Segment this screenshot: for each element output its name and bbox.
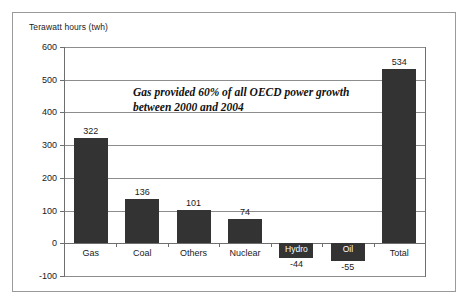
x-axis-category-label-oil: Oil: [343, 244, 353, 254]
bar-total[interactable]: [382, 69, 416, 244]
y-axis-tick: [60, 276, 65, 277]
chart-annotation-line-2: between 2000 and 2004: [133, 100, 383, 115]
y-axis-tick-label: 500: [42, 75, 57, 85]
x-axis-tick: [219, 243, 220, 247]
y-axis-tick-label: 400: [42, 107, 57, 117]
bar-value-label: 322: [83, 126, 98, 136]
x-axis-category-label-hydro: Hydro: [285, 244, 308, 254]
x-axis-category-label-total: Total: [390, 248, 409, 258]
chart-annotation-line-1: Gas provided 60% of all OECD power growt…: [133, 85, 383, 100]
y-axis-tick: [60, 145, 65, 146]
y-gridline: [65, 178, 425, 179]
y-axis-tick: [60, 178, 65, 179]
y-axis-tick-label: 200: [42, 173, 57, 183]
bar-value-label: 136: [135, 187, 150, 197]
bar-others[interactable]: [177, 210, 211, 243]
y-axis-tick: [60, 47, 65, 48]
y-axis-tick: [60, 80, 65, 81]
bar-value-label: 101: [186, 198, 201, 208]
bar-value-label: -44: [290, 259, 303, 269]
bar-coal[interactable]: [125, 199, 159, 243]
y-axis-tick-label: 600: [42, 42, 57, 52]
y-axis-tick: [60, 211, 65, 212]
x-axis-tick: [322, 243, 323, 247]
x-axis-tick: [374, 243, 375, 247]
x-axis-category-label-others: Others: [180, 248, 207, 258]
y-axis-tick-label: 300: [42, 140, 57, 150]
bar-value-label: -55: [341, 262, 354, 272]
y-axis-tick-label: 0: [52, 238, 57, 248]
y-gridline: [65, 47, 425, 48]
bar-value-label: 534: [392, 57, 407, 67]
y-axis-tick: [60, 243, 65, 244]
y-gridline: [65, 243, 425, 244]
y-gridline: [65, 145, 425, 146]
x-axis-category-label-coal: Coal: [133, 248, 152, 258]
x-axis-category-label-gas: Gas: [82, 248, 99, 258]
x-axis-tick: [116, 243, 117, 247]
chart-annotation: Gas provided 60% of all OECD power growt…: [133, 85, 383, 115]
x-axis-tick: [271, 243, 272, 247]
bar-nuclear[interactable]: [228, 219, 262, 243]
y-axis-tick-label: 100: [42, 206, 57, 216]
y-axis-tick-label: -100: [39, 271, 57, 281]
bar-value-label: 74: [240, 207, 250, 217]
chart-figure-frame: Terawatt hours (twh) 6005004003002001000…: [12, 12, 456, 292]
y-gridline: [65, 80, 425, 81]
y-axis-title: Terawatt hours (twh): [29, 22, 108, 32]
y-gridline: [65, 276, 425, 277]
x-axis-category-label-nuclear: Nuclear: [229, 248, 260, 258]
plot-area: 6005004003002001000-100322Gas136Coal101O…: [64, 47, 426, 277]
bar-gas[interactable]: [74, 138, 108, 243]
y-axis-tick: [60, 112, 65, 113]
x-axis-tick: [168, 243, 169, 247]
